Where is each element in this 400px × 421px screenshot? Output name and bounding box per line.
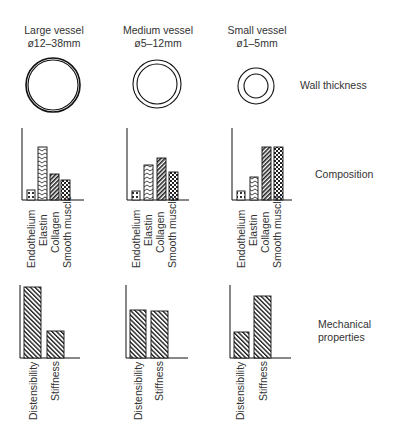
composition-chart-large xyxy=(22,128,84,200)
svg-text:Stiffness: Stiffness xyxy=(257,361,269,401)
svg-text:Distensibility: Distensibility xyxy=(132,361,144,420)
svg-text:Smooth muscle: Smooth muscle xyxy=(61,195,73,268)
composition-chart-medium xyxy=(127,128,189,200)
mechanical-chart-small xyxy=(230,285,291,358)
composition-labels-small: Endothelium Elastin Collagen Smooth musc… xyxy=(235,195,283,268)
svg-text:Collagen: Collagen xyxy=(154,211,166,253)
bar-stiffness xyxy=(151,311,168,358)
bar-elastin xyxy=(250,177,258,200)
mechanical-labels-large: Distensibility Stiffness xyxy=(27,361,61,420)
wall-ring-large xyxy=(26,58,80,112)
composition-chart-small xyxy=(232,128,292,200)
mechanical-labels-medium: Distensibility Stiffness xyxy=(132,361,165,420)
bar-endothelium xyxy=(237,191,245,200)
wall-ring-medium xyxy=(133,60,181,108)
svg-text:Stiffness: Stiffness xyxy=(49,361,61,401)
svg-text:Smooth muscle: Smooth muscle xyxy=(271,195,283,268)
svg-text:Elastin: Elastin xyxy=(37,214,49,246)
svg-text:Endothelium: Endothelium xyxy=(235,209,247,268)
svg-text:Collagen: Collagen xyxy=(259,211,271,253)
bar-distensibility xyxy=(234,332,249,358)
bar-elastin xyxy=(38,147,47,200)
bar-stiffness xyxy=(47,331,64,358)
diagram-canvas: Endothelium Elastin Collagen Smooth musc… xyxy=(0,0,400,421)
svg-text:Elastin: Elastin xyxy=(142,214,154,246)
svg-text:Endothelium: Endothelium xyxy=(25,209,37,268)
composition-labels-medium: Endothelium Elastin Collagen Smooth musc… xyxy=(130,195,178,268)
svg-text:Collagen: Collagen xyxy=(49,211,61,253)
svg-text:Stiffness: Stiffness xyxy=(153,361,165,401)
bar-collagen xyxy=(50,174,59,200)
bar-elastin xyxy=(144,165,153,200)
bar-endothelium xyxy=(27,190,35,200)
svg-text:Smooth muscle: Smooth muscle xyxy=(166,195,178,268)
bar-distensibility xyxy=(130,310,146,358)
svg-text:Distensibility: Distensibility xyxy=(27,361,39,420)
mechanical-chart-medium xyxy=(126,285,188,358)
mechanical-chart-large xyxy=(20,285,80,358)
composition-labels-large: Endothelium Elastin Collagen Smooth musc… xyxy=(25,195,73,268)
mechanical-labels-small: Distensibility Stiffness xyxy=(234,361,269,420)
bar-endothelium xyxy=(132,191,140,200)
svg-text:Endothelium: Endothelium xyxy=(130,209,142,268)
bar-collagen xyxy=(157,158,166,200)
wall-ring-small xyxy=(238,68,274,104)
bar-stiffness xyxy=(254,296,271,358)
bar-collagen xyxy=(262,147,271,200)
svg-text:Distensibility: Distensibility xyxy=(234,361,246,420)
bar-distensibility xyxy=(24,287,41,358)
bar-smooth-muscle xyxy=(274,147,283,200)
svg-text:Elastin: Elastin xyxy=(247,214,259,246)
